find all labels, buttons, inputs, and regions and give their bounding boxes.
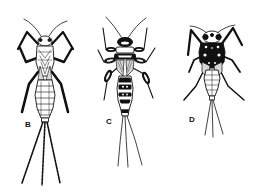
mayfly-nymph-figure: B	[0, 0, 258, 195]
label-b: B	[25, 120, 31, 129]
specimen-d: D	[184, 25, 244, 137]
specimen-b: B	[18, 19, 73, 185]
label-d: D	[189, 115, 195, 124]
specimen-c: C	[98, 17, 155, 167]
label-c: C	[106, 117, 112, 126]
